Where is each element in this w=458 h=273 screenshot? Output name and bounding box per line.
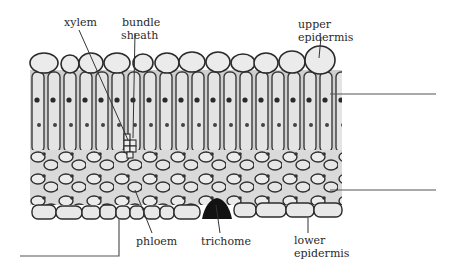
label-lower-epidermis-line1: lower [294, 234, 325, 247]
lower-epidermis-cells [32, 203, 342, 219]
upper-epidermis-cells [30, 46, 335, 74]
blank-line-bracket [20, 218, 119, 256]
label-bundle-sheath-line2: sheath [121, 29, 158, 42]
label-bundle-sheath-line1: bundle [122, 16, 160, 29]
tissue-block [30, 46, 342, 219]
label-upper-epidermis-line2: epidermis [298, 31, 353, 44]
leaf-cross-section-diagram: xylem bundle sheath upper epidermis phlo… [0, 0, 458, 273]
label-phloem: phloem [136, 235, 177, 248]
leaf-micrograph [0, 0, 458, 273]
label-trichome: trichome [201, 235, 251, 248]
label-xylem: xylem [64, 16, 97, 29]
label-upper-epidermis-line1: upper [298, 18, 331, 31]
label-lower-epidermis-line2: epidermis [294, 247, 349, 260]
